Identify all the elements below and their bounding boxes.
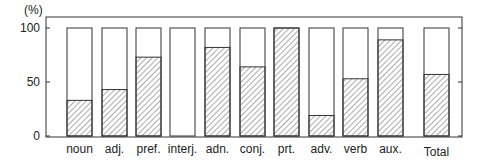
x-tick-label: adn. [206,142,229,156]
bar-Total [424,28,449,136]
stacked-bar-chart: (%) 050100 nounadj.pref.interj.adn.conj.… [0,0,486,167]
hatched-segment [424,74,449,136]
hatched-segment [240,67,265,136]
x-axis-labels: nounadj.pref.interj.adn.conj.prt.adv.ver… [66,142,449,159]
bar-aux [378,28,403,136]
bars-group [67,28,449,136]
hatched-segment [274,28,299,136]
hatched-segment [309,115,334,136]
x-tick-label: Total [424,145,449,159]
x-tick-label: aux. [379,142,402,156]
y-axis-label: (%) [24,3,43,17]
bar-verb [343,28,368,136]
bar-adj [102,28,127,136]
bar-prt [274,28,299,136]
y-tick-label: 0 [33,129,40,143]
x-tick-label: pref. [136,142,160,156]
hatched-segment [102,90,127,136]
x-tick-label: conj. [240,142,265,156]
y-tick-label: 50 [27,75,41,89]
bar-adn [205,28,230,136]
x-tick-label: interj. [168,142,197,156]
bar-noun [67,28,92,136]
hatched-segment [378,40,403,136]
x-tick-label: noun [66,142,93,156]
bar-interj [170,28,195,136]
bar-adv [309,28,334,136]
x-tick-label: adv. [311,142,333,156]
hatched-segment [343,79,368,136]
hatched-segment [205,47,230,136]
x-tick-label: prt. [278,142,295,156]
hatched-segment [67,100,92,136]
x-tick-label: verb [344,142,368,156]
hatched-segment [136,57,161,136]
bar-pref [136,28,161,136]
y-tick-label: 100 [20,21,40,35]
bar-conj [240,28,265,136]
x-tick-label: adj. [105,142,124,156]
